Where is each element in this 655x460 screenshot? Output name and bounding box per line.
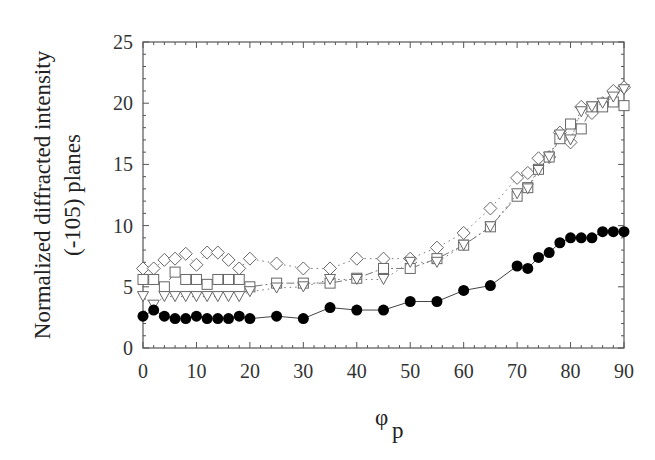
data-point [378,305,389,316]
data-point [138,311,149,322]
x-tick-label: 20 [240,360,260,382]
data-point [608,226,619,237]
data-point [484,202,497,215]
plot-frame [143,42,624,348]
data-point [191,311,202,322]
x-axis-title-main: φ [375,405,388,430]
data-point [576,124,586,134]
data-point [619,101,629,111]
data-point [212,313,223,324]
y-axis-title-line1: Normalized diffracted intensity [30,50,55,339]
data-point [378,274,389,284]
data-point [223,292,234,302]
x-tick-label: 10 [186,360,206,382]
data-point [224,274,234,284]
data-point [554,237,565,248]
y-tick-label: 5 [123,276,133,298]
data-point [211,246,224,259]
y-tick-label: 10 [113,215,133,237]
data-point [457,226,470,239]
data-point [244,313,255,324]
data-point [325,302,336,313]
data-point [298,313,309,324]
x-tick-label: 0 [138,360,148,382]
data-point [532,152,545,165]
data-point [485,280,496,291]
y-tick-label: 15 [113,153,133,175]
data-point [458,285,469,296]
data-point [180,313,191,324]
data-point [234,311,245,322]
x-axis-title: φ p [375,405,404,443]
data-point [512,260,523,271]
data-point [522,263,533,274]
data-point [297,262,310,275]
data-point [270,257,283,270]
data-point [576,107,587,117]
x-tick-label: 90 [614,360,634,382]
data-point [202,279,212,289]
x-tick-label: 40 [347,360,367,382]
y-axis-title: Normalized diffracted intensity (-105) p… [30,50,85,339]
data-point [565,232,576,243]
data-point [234,292,245,302]
data-point [586,232,597,243]
data-point [147,262,160,275]
data-point [243,252,256,265]
y-axis-title-line2: (-105) planes [60,134,85,256]
y-tick-label: 25 [113,31,133,53]
data-point [431,296,442,307]
data-point [148,305,159,316]
y-tick-label: 0 [123,337,133,359]
data-point [234,274,244,284]
data-point [350,252,363,265]
data-point [544,247,555,258]
data-point [158,253,171,266]
x-axis-title-sub: p [392,418,404,443]
data-point [191,274,201,284]
data-point [271,311,282,322]
x-tick-label: 60 [454,360,474,382]
chart: 0102030405060708090 0510152025 Normalize… [0,0,655,460]
series-triangles [138,85,630,310]
data-point [212,292,223,302]
data-point [222,253,235,266]
data-point [138,292,149,302]
x-axis: 0102030405060708090 [138,42,634,382]
data-point [149,274,159,284]
data-point [405,296,416,307]
data-point [619,226,630,237]
plot-border [143,42,624,348]
data-point [430,241,443,254]
data-point [213,274,223,284]
data-point [170,267,180,277]
data-point [576,232,587,243]
x-tick-label: 80 [561,360,581,382]
data-point [597,226,608,237]
data-point [324,262,337,275]
data-point [159,311,170,322]
data-point [159,282,169,292]
data-point [351,305,362,316]
y-tick-label: 20 [113,92,133,114]
data-point [170,313,181,324]
data-point [223,313,234,324]
data-point [138,274,148,284]
data-series [137,81,631,324]
x-tick-label: 30 [293,360,313,382]
data-point [379,263,389,273]
data-point [533,252,544,263]
data-point [566,119,576,129]
x-tick-label: 70 [507,360,527,382]
data-point [202,313,213,324]
x-tick-label: 50 [400,360,420,382]
data-point [181,274,191,284]
